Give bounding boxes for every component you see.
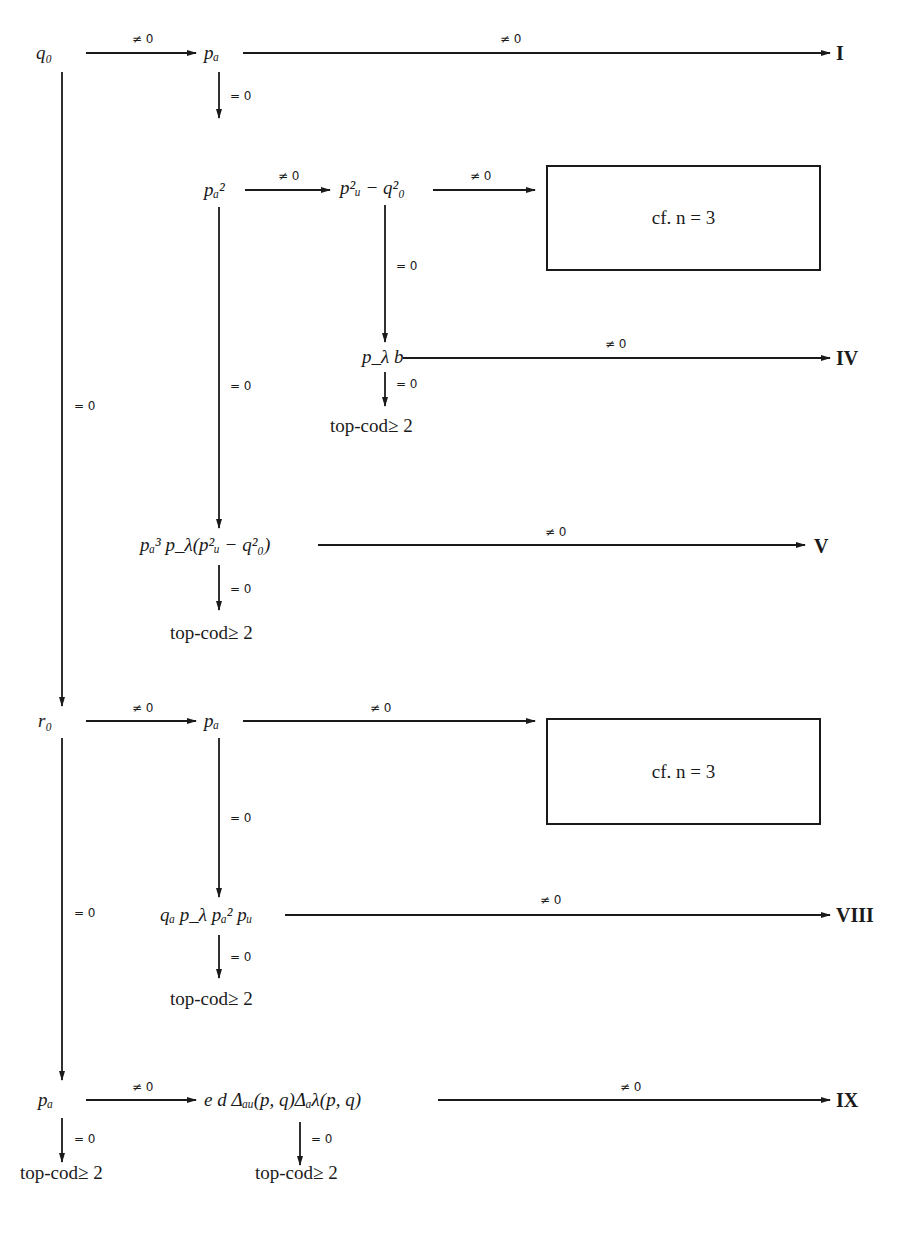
cond-qaexpr-VIII: ≠ 0	[540, 894, 562, 906]
reference-box-1: cf. n = 3	[546, 165, 821, 271]
outcome-V: V	[814, 536, 828, 556]
cond-pa-pa2: = 0	[230, 90, 252, 102]
node-q0: q₀	[36, 43, 52, 62]
node-qa-expr: qₐ p_λ pₐ² pᵤ	[160, 905, 252, 924]
cond-plambdab-IV: ≠ 0	[605, 338, 627, 350]
reference-box-1-text: cf. n = 3	[652, 207, 715, 229]
node-r0: r₀	[38, 711, 52, 730]
outcome-VIII: VIII	[836, 905, 874, 925]
node-e-d-delta: e d Δₐᵤ(p, q)Δₐλ(p, q)	[204, 1090, 361, 1109]
cond-pa3-topcod: = 0	[74, 1133, 96, 1145]
cond-edelta-topcod: = 0	[311, 1133, 333, 1145]
cond-pa2-pu2: ≠ 0	[278, 170, 300, 182]
terminal-top-cod-1: top-cod≥ 2	[330, 416, 413, 435]
node-pa-3: pₐ	[38, 1090, 53, 1109]
node-plambda-b: p_λ b	[362, 347, 403, 366]
cond-pa3expr-V: ≠ 0	[545, 526, 567, 538]
terminal-top-cod-4: top-cod≥ 2	[20, 1163, 103, 1182]
terminal-top-cod-5: top-cod≥ 2	[255, 1163, 338, 1182]
decision-tree-diagram: q₀ ≠ 0 pₐ ≠ 0 I = 0 pₐ² ≠ 0 p²ᵤ − q²₀ ≠ …	[0, 0, 913, 1246]
cond-pa-I: ≠ 0	[500, 33, 522, 45]
node-pa-1: pₐ	[204, 43, 219, 62]
node-pu2-minus-q02: p²ᵤ − q²₀	[340, 178, 405, 197]
cond-pa-qaexpr: = 0	[230, 812, 252, 824]
outcome-IX: IX	[836, 1090, 858, 1110]
cond-pa-box2: ≠ 0	[370, 702, 392, 714]
cond-plambdab-topcod: = 0	[396, 378, 418, 390]
terminal-top-cod-3: top-cod≥ 2	[170, 989, 253, 1008]
cond-pa2-pa3expr: = 0	[230, 380, 252, 392]
cond-pu2-plambdab: = 0	[396, 260, 418, 272]
terminal-top-cod-2: top-cod≥ 2	[170, 623, 253, 642]
reference-box-2: cf. n = 3	[546, 718, 821, 825]
cond-r0-pa3: = 0	[74, 907, 96, 919]
outcome-I: I	[836, 43, 844, 63]
node-pa3-expr: pₐ³ p_λ(p²ᵤ − q²₀)	[140, 535, 270, 554]
cond-pa3-edelta: ≠ 0	[132, 1081, 154, 1093]
cond-qaexpr-topcod: = 0	[230, 951, 252, 963]
cond-q0-r0: = 0	[74, 400, 96, 412]
cond-pu2-box1: ≠ 0	[470, 170, 492, 182]
outcome-IV: IV	[836, 348, 858, 368]
cond-q0-pa: ≠ 0	[132, 33, 154, 45]
cond-edelta-IX: ≠ 0	[620, 1081, 642, 1093]
node-pa-2: pₐ	[204, 711, 219, 730]
cond-r0-pa: ≠ 0	[132, 702, 154, 714]
cond-pa3expr-topcod: = 0	[230, 583, 252, 595]
node-pa2: pₐ²	[204, 180, 225, 199]
reference-box-2-text: cf. n = 3	[652, 761, 715, 783]
